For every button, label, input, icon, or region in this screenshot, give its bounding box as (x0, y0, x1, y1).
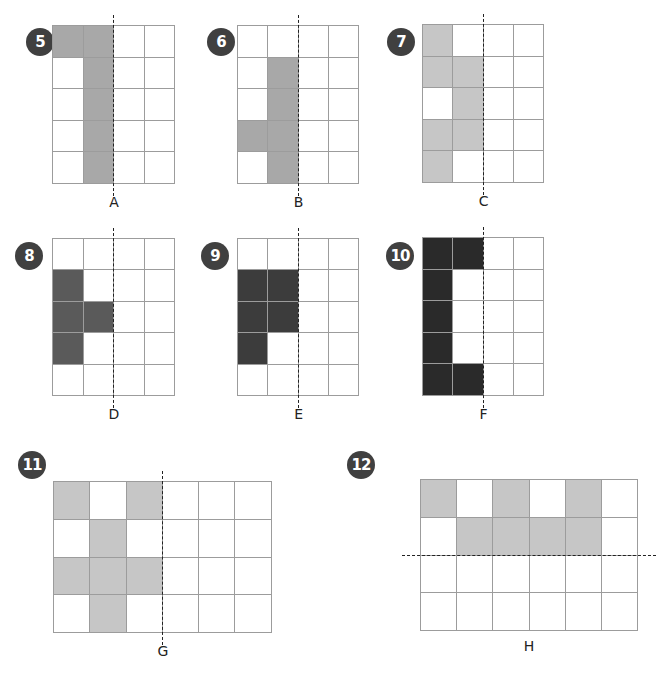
grid-cell-filled[interactable] (493, 518, 529, 556)
grid-cell-empty[interactable] (299, 333, 329, 364)
grid-cell-empty[interactable] (127, 595, 163, 633)
grid-cell-filled[interactable] (423, 120, 453, 152)
grid-cell-empty[interactable] (238, 26, 268, 58)
grid-cell-empty[interactable] (84, 365, 115, 396)
grid-cell-empty[interactable] (602, 556, 638, 594)
grid-cell-filled[interactable] (453, 238, 483, 270)
grid-cell-empty[interactable] (566, 593, 602, 631)
grid-cell-empty[interactable] (54, 520, 90, 558)
grid-cell-empty[interactable] (484, 88, 514, 120)
grid-cell-empty[interactable] (329, 333, 359, 364)
grid-cell-empty[interactable] (53, 239, 84, 270)
grid-cell-filled[interactable] (423, 270, 453, 302)
grid-cell-empty[interactable] (54, 595, 90, 633)
grid-cell-empty[interactable] (235, 558, 271, 596)
grid-cell-empty[interactable] (329, 365, 359, 396)
grid-cell-empty[interactable] (114, 26, 145, 58)
grid-cell-empty[interactable] (457, 480, 493, 518)
grid-cell-empty[interactable] (145, 302, 176, 333)
grid-cell-empty[interactable] (268, 239, 298, 270)
grid-cell-empty[interactable] (514, 151, 544, 183)
grid-cell-empty[interactable] (514, 364, 544, 396)
grid-cell-filled[interactable] (268, 152, 298, 184)
grid-cell-empty[interactable] (145, 89, 176, 121)
grid-cell-empty[interactable] (514, 270, 544, 302)
grid-cell-empty[interactable] (530, 556, 566, 594)
grid-cell-filled[interactable] (268, 121, 298, 153)
grid-cell-empty[interactable] (484, 301, 514, 333)
grid-cell-empty[interactable] (114, 365, 145, 396)
grid-cell-filled[interactable] (53, 270, 84, 301)
grid-cell-empty[interactable] (145, 365, 176, 396)
grid-cell-empty[interactable] (453, 151, 483, 183)
grid-cell-empty[interactable] (484, 333, 514, 365)
grid-cell-empty[interactable] (493, 593, 529, 631)
grid-cell-empty[interactable] (84, 333, 115, 364)
grid-cell-empty[interactable] (484, 120, 514, 152)
grid-cell-empty[interactable] (145, 121, 176, 153)
grid-cell-filled[interactable] (453, 57, 483, 89)
grid-cell-filled[interactable] (53, 26, 84, 58)
grid-cell-empty[interactable] (421, 518, 457, 556)
grid-cell-empty[interactable] (453, 25, 483, 57)
grid-cell-filled[interactable] (90, 595, 126, 633)
grid-cell-empty[interactable] (329, 89, 359, 121)
grid-cell-empty[interactable] (484, 151, 514, 183)
grid-cell-filled[interactable] (457, 518, 493, 556)
grid-cell-filled[interactable] (453, 120, 483, 152)
grid-cell-empty[interactable] (114, 333, 145, 364)
grid-cell-filled[interactable] (566, 480, 602, 518)
grid-cell-filled[interactable] (84, 89, 115, 121)
grid-cell-empty[interactable] (114, 89, 145, 121)
grid-cell-empty[interactable] (199, 595, 235, 633)
grid-cell-empty[interactable] (114, 270, 145, 301)
grid-cell-empty[interactable] (84, 239, 115, 270)
grid-cell-filled[interactable] (268, 89, 298, 121)
grid-cell-filled[interactable] (268, 58, 298, 90)
grid-cell-empty[interactable] (453, 333, 483, 365)
grid-cell-filled[interactable] (127, 558, 163, 596)
grid-cell-empty[interactable] (493, 556, 529, 594)
grid-cell-empty[interactable] (235, 482, 271, 520)
grid-cell-empty[interactable] (127, 520, 163, 558)
grid-cell-empty[interactable] (199, 482, 235, 520)
grid-cell-empty[interactable] (484, 25, 514, 57)
grid-cell-empty[interactable] (238, 239, 268, 270)
grid-cell-empty[interactable] (163, 595, 199, 633)
grid-cell-empty[interactable] (114, 121, 145, 153)
grid-cell-empty[interactable] (163, 558, 199, 596)
grid-cell-empty[interactable] (530, 593, 566, 631)
grid-cell-empty[interactable] (514, 301, 544, 333)
grid-cell-empty[interactable] (238, 365, 268, 396)
grid-cell-empty[interactable] (299, 26, 329, 58)
grid-cell-empty[interactable] (145, 26, 176, 58)
grid-cell-empty[interactable] (145, 58, 176, 90)
grid-cell-empty[interactable] (484, 238, 514, 270)
grid-cell-empty[interactable] (421, 593, 457, 631)
grid-cell-filled[interactable] (238, 121, 268, 153)
grid-cell-filled[interactable] (90, 558, 126, 596)
grid-cell-empty[interactable] (53, 365, 84, 396)
grid-cell-empty[interactable] (238, 89, 268, 121)
grid-cell-empty[interactable] (268, 333, 298, 364)
grid-cell-empty[interactable] (235, 595, 271, 633)
grid-cell-filled[interactable] (423, 364, 453, 396)
grid-cell-empty[interactable] (238, 58, 268, 90)
grid-cell-empty[interactable] (329, 152, 359, 184)
grid-cell-empty[interactable] (299, 121, 329, 153)
grid-cell-filled[interactable] (84, 121, 115, 153)
grid-cell-empty[interactable] (453, 301, 483, 333)
grid-cell-filled[interactable] (238, 270, 268, 301)
grid-cell-empty[interactable] (145, 270, 176, 301)
grid-cell-filled[interactable] (566, 518, 602, 556)
grid-cell-empty[interactable] (53, 121, 84, 153)
grid-cell-empty[interactable] (514, 25, 544, 57)
grid-cell-filled[interactable] (453, 364, 483, 396)
grid-cell-filled[interactable] (493, 480, 529, 518)
grid-cell-empty[interactable] (199, 520, 235, 558)
grid-cell-empty[interactable] (484, 57, 514, 89)
grid-cell-filled[interactable] (53, 302, 84, 333)
grid-cell-empty[interactable] (299, 270, 329, 301)
grid-cell-empty[interactable] (421, 556, 457, 594)
grid-cell-empty[interactable] (484, 364, 514, 396)
